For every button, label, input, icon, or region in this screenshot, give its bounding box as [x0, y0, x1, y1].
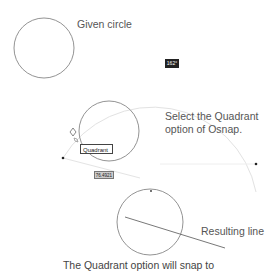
label-select-quadrant-1: Select the Quadrant: [165, 110, 258, 123]
result-circle: [117, 189, 183, 255]
given-circle: [14, 18, 74, 78]
angle-tooltip: 162°: [165, 59, 179, 68]
quadrant-point: [150, 190, 152, 192]
caption: The Quadrant option will snap to: [0, 259, 277, 271]
end-point: [255, 163, 258, 166]
quadrant-marker-icon: [70, 128, 76, 136]
label-given-circle: Given circle: [77, 18, 132, 31]
osnap-tooltip: Quadrant: [80, 144, 113, 154]
coordinate-input: 76.4921: [94, 171, 114, 179]
label-select-quadrant-2: option of Osnap.: [165, 123, 242, 136]
label-resulting-line: Resulting line: [201, 225, 264, 238]
start-point: [62, 157, 65, 160]
